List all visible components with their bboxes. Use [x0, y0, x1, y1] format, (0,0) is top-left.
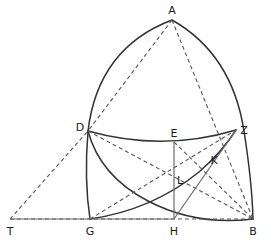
line-H-K-Z: [174, 130, 236, 219]
arc-D-E-Z: [88, 130, 236, 141]
point-label-L: L: [177, 174, 184, 187]
line-T-D: [10, 131, 88, 219]
point-label-D: D: [76, 121, 84, 134]
geometry-diagram: A D E Z K L T G H B: [0, 0, 280, 242]
point-label-T: T: [6, 225, 14, 238]
chord-A-B: [172, 20, 253, 219]
point-label-H: H: [170, 225, 178, 238]
point-label-Z: Z: [240, 124, 248, 137]
point-label-K: K: [210, 154, 218, 167]
diagram-canvas: A D E Z K L T G H B: [0, 0, 280, 242]
point-label-E: E: [171, 127, 178, 140]
point-label-B: B: [249, 225, 257, 238]
point-label-G: G: [86, 225, 95, 238]
chord-A-D: [88, 20, 172, 131]
point-label-A: A: [168, 4, 176, 17]
